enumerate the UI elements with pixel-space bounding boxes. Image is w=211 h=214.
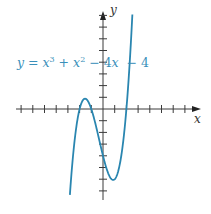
y-axis-label: y [110,3,117,17]
eq-equals: = [24,55,42,70]
eq-minus-const: − 4 [119,55,149,70]
eq-y: y [17,55,24,70]
eq-minus-4: − 4 [85,55,111,70]
eq-x1: x [42,55,49,70]
x-axis-label: x [194,112,201,126]
equation-label: y = x3 + x2 − 4x − 4 [17,55,149,70]
cubic-function-graph [0,0,211,214]
eq-x3: x [112,55,119,70]
eq-plus: + [55,55,73,70]
